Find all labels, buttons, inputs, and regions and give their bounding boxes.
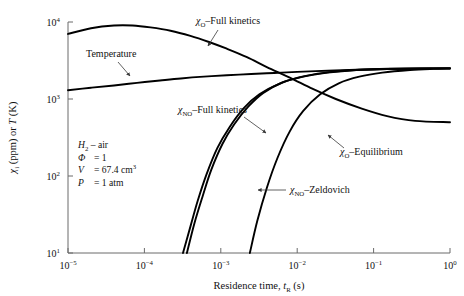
y-tick-label: 102: [47, 170, 61, 182]
y-axis-label: χi (ppm) or T (K): [7, 101, 20, 174]
x-axis-label: Residence time, tR (s): [214, 280, 305, 293]
annotation-leader: [118, 62, 130, 76]
curves-group: [68, 25, 450, 253]
condition-line: P= 1 atm: [77, 177, 124, 188]
y-tick-label: 101: [47, 247, 60, 259]
annotation-chi-no-full-kinetics: χNO–Full kinetics: [177, 104, 266, 133]
x-tick-label: 10−5: [59, 259, 77, 271]
annotation-chi-o-equilibrium: χO–Equilibrium: [328, 135, 403, 159]
data-curve: [250, 68, 450, 253]
annotation-label: χO–Full kinetics: [195, 15, 260, 28]
y-tick-label: 103: [47, 93, 61, 105]
condition-line: V= 67.4 cm3: [78, 163, 137, 175]
annotation-label: χNO–Zeldovich: [289, 184, 350, 197]
annotation-chi-no-zeldovich: χNO–Zeldovich: [258, 184, 350, 197]
x-tick-label: 10−2: [289, 259, 307, 271]
x-tick-label: 10−4: [136, 259, 154, 271]
annotation-label: Temperature: [86, 48, 137, 59]
annotation-label: χO–Equilibrium: [339, 146, 403, 159]
x-tick-label: 10−3: [212, 259, 230, 271]
annotation-label: χNO–Full kinetics: [177, 104, 247, 117]
y-tick-label: 104: [47, 16, 61, 28]
x-tick-label: 10−1: [365, 259, 382, 271]
axis-labels-group: Residence time, tR (s)χi (ppm) or T (K): [7, 101, 305, 293]
data-curve: [183, 68, 450, 253]
x-tick-label: 100: [443, 259, 457, 271]
figure-container: 10−510−410−310−210−1100101102103104 χO–F…: [0, 0, 464, 296]
conditions-block: H2 – airΦ= 1V= 67.4 cm3P= 1 atm: [77, 139, 137, 188]
condition-line: Φ= 1: [78, 152, 107, 163]
chart-svg: 10−510−410−310−210−1100101102103104 χO–F…: [0, 0, 464, 296]
condition-line: H2 – air: [77, 139, 109, 152]
annotation-leader: [244, 117, 266, 133]
annotation-temperature: Temperature: [86, 48, 137, 76]
annotation-leader: [328, 135, 344, 148]
